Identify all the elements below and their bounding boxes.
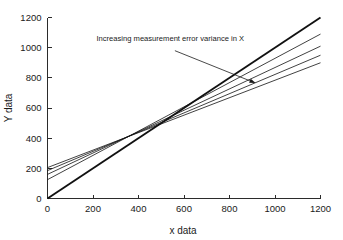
x-tick-label: 800 — [222, 203, 238, 214]
y-tick-label: 600 — [26, 102, 42, 113]
y-tick-label: 1000 — [20, 42, 41, 53]
x-tick-label: 1200 — [310, 203, 331, 214]
line-chart: 020040060080010001200 020040060080010001… — [0, 0, 343, 240]
x-tick-label: 0 — [45, 203, 50, 214]
y-tick-label: 1200 — [20, 12, 41, 23]
x-tick-label: 1000 — [264, 203, 285, 214]
x-axis-label: x data — [169, 225, 197, 236]
x-tick-label: 200 — [85, 203, 101, 214]
y-axis-label: Y data — [3, 93, 14, 122]
y-tick-label: 400 — [26, 133, 42, 144]
x-tick-label: 600 — [176, 203, 192, 214]
x-tick-label: 400 — [131, 203, 147, 214]
annotation-text: Increasing measurement error variance in… — [96, 34, 244, 43]
y-tick-label: 800 — [26, 72, 42, 83]
y-tick-label: 0 — [36, 193, 41, 204]
chart-figure: 020040060080010001200 020040060080010001… — [0, 0, 343, 240]
y-tick-label: 200 — [26, 163, 42, 174]
